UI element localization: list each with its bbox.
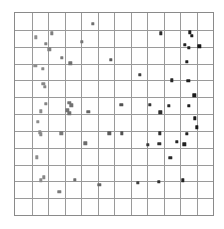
plot-area [14, 12, 214, 216]
grid-line-horizontal [15, 148, 213, 149]
data-point [187, 104, 190, 107]
grid-line-horizontal [15, 97, 213, 98]
data-point [109, 58, 112, 61]
data-point [48, 47, 51, 50]
data-point [98, 183, 101, 186]
data-point [43, 85, 46, 88]
data-point [167, 104, 170, 107]
scatter-plot-figure [0, 0, 224, 229]
data-point [60, 56, 63, 59]
data-point [70, 104, 73, 107]
data-point [182, 143, 185, 146]
data-point [158, 142, 161, 145]
data-point [169, 156, 172, 159]
data-point [34, 36, 37, 39]
grid-line-horizontal [15, 47, 213, 48]
data-point [35, 156, 38, 159]
data-point [39, 132, 42, 135]
grid-line-horizontal [15, 64, 213, 65]
data-point [36, 120, 39, 123]
data-point [83, 142, 86, 145]
data-point [44, 102, 47, 105]
data-point [44, 42, 47, 45]
data-point [34, 64, 37, 67]
grid-line-horizontal [15, 80, 213, 81]
data-point [80, 40, 83, 43]
data-point [175, 140, 178, 143]
data-point [42, 175, 45, 178]
data-point [120, 132, 123, 135]
grid-line-horizontal [15, 30, 213, 31]
data-point [58, 190, 61, 193]
data-point [91, 22, 94, 25]
data-point [148, 103, 151, 106]
grid-line-horizontal [15, 114, 213, 115]
data-point [120, 103, 123, 106]
data-point [195, 126, 198, 129]
data-point [41, 67, 44, 70]
data-point [39, 110, 42, 113]
data-point [185, 132, 188, 135]
data-point [158, 132, 161, 135]
data-point [187, 46, 190, 49]
data-point [146, 143, 149, 146]
data-point [136, 181, 139, 184]
data-point [59, 132, 62, 135]
grid-line-horizontal [15, 198, 213, 199]
data-point [187, 79, 190, 82]
data-point [108, 132, 111, 135]
data-point [157, 180, 160, 183]
grid-line-horizontal [15, 131, 213, 132]
data-point [50, 31, 53, 34]
data-point [190, 34, 193, 37]
data-point [138, 73, 141, 76]
grid-line-horizontal [15, 165, 213, 166]
data-point [159, 31, 162, 34]
data-point [170, 79, 173, 82]
